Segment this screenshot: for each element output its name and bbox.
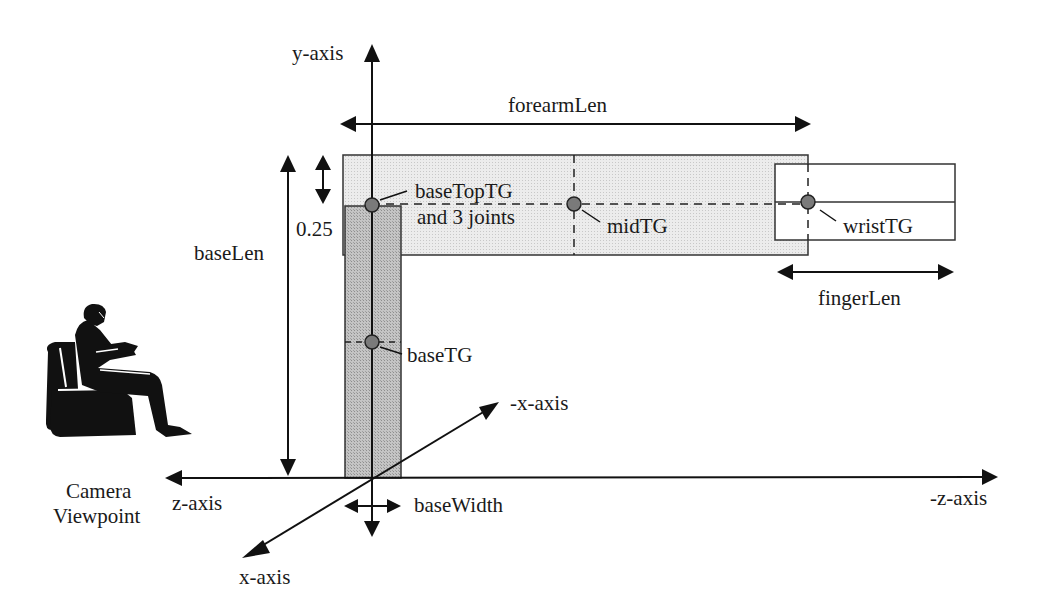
forearm-dim-right-arrow	[795, 116, 811, 132]
x-axis-label: x-axis	[239, 565, 290, 589]
base-top-node	[365, 198, 379, 212]
forearm-dim-left-arrow	[340, 116, 356, 132]
person-in-armchair-icon	[46, 304, 192, 437]
base-node	[365, 335, 379, 349]
basewidth-dim-left-arrow	[344, 499, 358, 513]
camera-label: Camera	[66, 479, 132, 503]
y-axis-down-arrowhead	[364, 521, 380, 537]
finger-dim-left-arrow	[777, 264, 793, 280]
wrist-node	[801, 195, 815, 209]
base-top-label-line2: and 3 joints	[417, 205, 515, 229]
finger-dim-right-arrow	[938, 264, 954, 280]
base-width-label: baseWidth	[414, 493, 503, 517]
camera-label-line2: Viewpoint	[53, 504, 141, 528]
basewidth-dim-right-arrow	[387, 499, 401, 513]
z-axis-arrowhead	[165, 470, 182, 486]
z-axis-label: z-axis	[172, 491, 222, 515]
y-axis-label: y-axis	[292, 41, 343, 65]
offset-label: 0.25	[296, 217, 333, 241]
finger-len-label: fingerLen	[818, 286, 901, 310]
baselen-dim-top-arrow	[280, 155, 296, 172]
neg-x-axis-label: -x-axis	[510, 391, 568, 415]
mid-node	[567, 197, 581, 211]
base-label: baseTG	[407, 343, 472, 367]
neg-z-axis-label: -z-axis	[930, 486, 987, 510]
y-axis-arrowhead	[364, 44, 380, 62]
forearm-len-label: forearmLen	[508, 93, 608, 117]
wrist-label: wristTG	[843, 214, 913, 238]
robot-arm-diagram: y-axis forearmLen 0.25 baseLen baseTopTG…	[0, 0, 1038, 614]
mid-label: midTG	[607, 214, 668, 238]
baselen-dim-bottom-arrow	[280, 459, 296, 476]
base-len-label: baseLen	[194, 241, 264, 265]
offset-dim-top-arrow	[315, 155, 331, 170]
z-axis-line	[178, 477, 985, 478]
base-top-label: baseTopTG	[415, 179, 513, 203]
diagram-svg: y-axis forearmLen 0.25 baseLen baseTopTG…	[0, 0, 1038, 614]
neg-z-axis-arrowhead	[982, 469, 998, 485]
offset-dim-bottom-arrow	[315, 189, 331, 204]
neg-x-axis-arrowhead	[479, 402, 499, 420]
